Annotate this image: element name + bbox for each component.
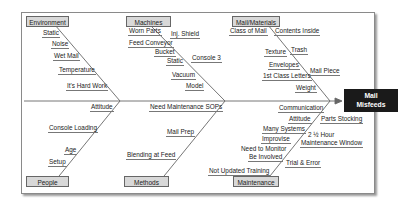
cause-label: Attitude	[90, 103, 114, 112]
cause-label: Improvise	[261, 135, 291, 144]
cause-label: 1st Class Letters	[262, 72, 312, 81]
cause-label: Temperature	[58, 66, 96, 75]
effect-line1: Mail	[344, 91, 398, 100]
cause-label: Age	[64, 146, 77, 155]
category-mail-materials: Mail/Materials	[232, 16, 280, 27]
cause-label: Envelopes	[268, 61, 300, 70]
category-methods: Methods	[124, 176, 169, 187]
cause-label: Need to Monitor	[240, 145, 287, 153]
cause-label: Mail Prep	[166, 128, 195, 137]
cause-label: Model	[185, 82, 204, 91]
cause-label: Parts Stocking	[320, 115, 363, 124]
cause-label: Wet Mail	[53, 52, 80, 61]
cause-label: Be Involved	[248, 153, 283, 162]
cause-label: It's Hard Work	[66, 82, 108, 91]
cause-label: Inj. Shield	[170, 30, 200, 39]
cause-label: Many Systems	[262, 125, 306, 134]
cause-label: Weight	[295, 84, 317, 93]
cause-label: Worn Parts	[128, 27, 162, 36]
cause-label: Class of Mail	[229, 27, 268, 36]
category-environment: Environment	[26, 16, 69, 27]
cause-label: Texture	[264, 48, 287, 57]
cause-label: Blending at Feed	[126, 151, 176, 160]
cause-label: Attitude	[288, 115, 312, 124]
cause-label: Trial & Error	[285, 159, 321, 168]
cause-label: Maintenance Window	[300, 139, 363, 148]
category-maintenance: Maintenance	[233, 176, 279, 187]
cause-label: Feed Conveyor	[128, 39, 174, 48]
cause-label: Not Updated Training	[208, 167, 270, 176]
cause-label: Vacuum	[171, 71, 196, 80]
effect-box: Mail Misfeeds	[344, 89, 398, 112]
cause-label: 2 ½ Hour	[307, 131, 335, 139]
category-people: People	[26, 176, 69, 187]
cause-label: Setup	[48, 158, 67, 167]
cause-label: Trash	[290, 46, 308, 55]
cause-label: Communication	[278, 104, 324, 113]
cause-label: Console 3	[191, 54, 222, 63]
cause-label: Bucket	[154, 48, 176, 57]
category-machines: Machines	[126, 16, 171, 27]
cause-label: Console Loading	[48, 124, 98, 133]
effect-line2: Misfeeds	[344, 100, 398, 109]
cause-label: Mail Piece	[309, 67, 340, 76]
cause-label: Contents Inside	[274, 27, 320, 36]
cause-label: Static	[42, 29, 60, 38]
cause-label: Static	[166, 57, 184, 66]
cause-label: Need Maintenance SOPs	[149, 103, 223, 112]
cause-label: Noise	[51, 40, 69, 49]
